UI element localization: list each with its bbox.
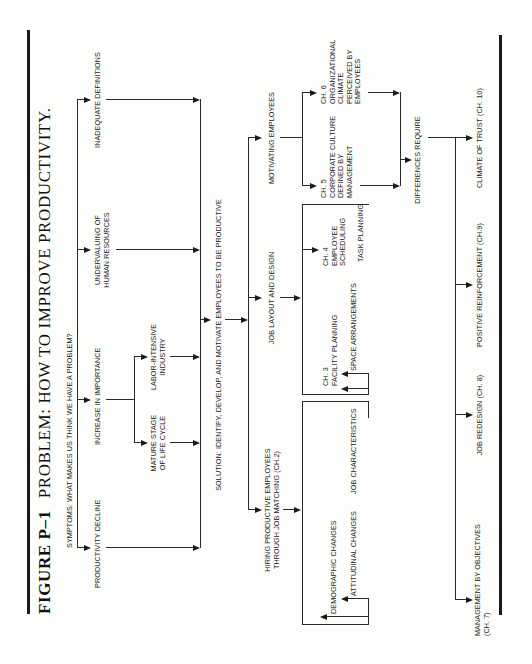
figure-title-text: PROBLEM: HOW TO IMPROVE PRODUCTIVITY. xyxy=(35,108,54,499)
solution-label: SOLUTION: IDENTIFY, DEVELOP, AND MOTIVAT… xyxy=(215,190,224,500)
connector xyxy=(302,92,303,186)
arrow-icon xyxy=(393,183,400,189)
arrow-icon xyxy=(405,157,412,163)
arrow-icon xyxy=(193,247,200,253)
input-job-characteristics: JOB CHARACTERISTICS xyxy=(350,408,359,494)
connector xyxy=(368,92,393,93)
connector xyxy=(455,137,456,600)
diagram-canvas: FIGURE P–1PROBLEM: HOW TO IMPROVE PRODUC… xyxy=(0,0,532,664)
arrow-icon xyxy=(255,295,262,301)
symptom-undervaluing-human-resources: UNDERVALUING OF HUMAN RESOURCES xyxy=(94,200,111,300)
connector xyxy=(200,99,201,548)
connector xyxy=(116,249,193,250)
arrow-icon xyxy=(193,354,200,360)
symptom-increase-in-importance: INCREASE IN IMPORTANCE xyxy=(94,355,103,445)
outcome-job-redesign: JOB REDESIGN (CH. 8) xyxy=(476,365,485,465)
arrow-icon xyxy=(310,90,317,96)
arrow-icon xyxy=(466,282,473,288)
task-planning: TASK PLANNING xyxy=(357,204,366,262)
symptom-productivity-decline: PRODUCTIVITY DECLINE xyxy=(94,508,103,588)
connector xyxy=(280,137,302,138)
connector xyxy=(106,99,193,100)
connector xyxy=(322,616,369,617)
input-demographic-changes: DEMOGRAPHIC CHANGES xyxy=(330,520,339,614)
connector xyxy=(77,99,78,548)
ch6-organizational-climate: CH. 6 ORGANIZATIONAL CLIMATE PERCEIVED B… xyxy=(320,40,363,104)
connector xyxy=(248,137,249,510)
arrow-icon xyxy=(84,247,91,253)
outcome-mbo: MANAGEMENT BY OBJECTIVES (CH. 7) xyxy=(474,524,491,636)
cause-labor-intensive: LABOR-INTENSIVE INDUSTRY xyxy=(150,317,167,397)
connector xyxy=(280,297,295,298)
arrow-icon xyxy=(255,135,262,141)
arrow-icon xyxy=(84,545,91,551)
ch5-corporate-culture: CH. 5 CORPORATE CULTURE DEFINED BY MANAG… xyxy=(320,116,354,198)
arrow-icon xyxy=(84,397,91,403)
arrow-icon xyxy=(341,371,348,377)
arrow-icon xyxy=(241,317,248,323)
branch-job-layout: JOB LAYOUT AND DESIGN xyxy=(268,243,277,353)
cause-mature-stage: MATURE STAGE OF LIFE CYCLE xyxy=(150,408,167,478)
arrow-icon xyxy=(341,596,348,602)
arrow-icon xyxy=(255,507,262,513)
arrow-icon xyxy=(204,317,211,323)
connector xyxy=(428,137,455,138)
connector xyxy=(106,399,135,400)
arrow-icon xyxy=(141,440,148,446)
connector xyxy=(400,92,401,186)
arrow-icon xyxy=(466,597,473,603)
input-attitudinal-changes: ATTITUDINAL CHANGES xyxy=(350,511,359,596)
outcome-climate-of-trust: CLIMATE OF TRUST (CH. 10) xyxy=(476,83,485,193)
arrow-icon xyxy=(320,614,327,620)
connector xyxy=(106,547,193,548)
figure-title: FIGURE P–1PROBLEM: HOW TO IMPROVE PRODUC… xyxy=(35,108,55,614)
arrow-icon xyxy=(193,97,200,103)
connector xyxy=(302,401,303,625)
connector xyxy=(225,319,242,320)
space-arrangements: SPACE ARRANGEMENTS xyxy=(350,283,359,371)
connector xyxy=(170,442,193,443)
branch-hiring: HIRING PRODUCTIVE EMPLOYEES THROUGH JOB … xyxy=(264,445,281,575)
connector xyxy=(302,394,369,395)
arrow-icon xyxy=(466,412,473,418)
connector xyxy=(170,356,193,357)
ch4-employee-scheduling: CH. 4 EMPLOYEE SCHEDULING xyxy=(322,218,348,266)
outcome-positive-reinforcement: POSITIVE REINFORCEMENT (CH.9) xyxy=(476,220,485,350)
arrow-icon xyxy=(312,247,319,253)
differences-require: DIFFERENCES REQUIRE xyxy=(414,110,423,210)
top-rule xyxy=(27,30,30,614)
symptoms-heading: SYMPTOMS: WHAT MAKES US THINK WE HAVE A … xyxy=(66,333,75,548)
arrow-icon xyxy=(193,545,200,551)
branch-motivating: MOTIVATING EMPLOYEES xyxy=(268,88,277,188)
symptom-inadequate-definitions: INADEQUATE DEFINITIONS xyxy=(94,50,103,150)
arrow-icon xyxy=(341,386,348,392)
connector xyxy=(302,204,303,395)
arrow-icon xyxy=(310,183,317,189)
arrow-icon xyxy=(294,507,301,513)
connector xyxy=(302,401,369,402)
arrow-icon xyxy=(141,354,148,360)
figure-number: FIGURE P–1 xyxy=(35,510,54,614)
ch3-facility-planning: CH. 3 FACILITY PLANNING xyxy=(322,315,339,386)
arrow-icon xyxy=(466,135,473,141)
arrow-icon xyxy=(193,440,200,446)
arrow-icon xyxy=(294,295,301,301)
connector xyxy=(302,624,369,625)
connector xyxy=(360,185,393,186)
arrow-icon xyxy=(393,90,400,96)
connector xyxy=(134,356,135,443)
connector xyxy=(368,401,369,418)
arrow-icon xyxy=(84,97,91,103)
connector xyxy=(368,599,369,625)
bottom-rule xyxy=(499,35,502,615)
connector xyxy=(368,373,369,395)
